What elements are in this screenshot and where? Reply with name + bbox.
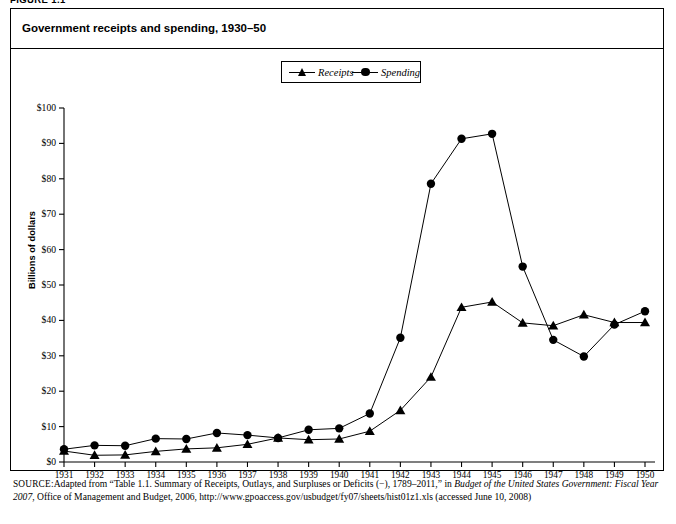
y-axis-tick-label: $20 <box>22 385 56 396</box>
y-axis-tick-label: $30 <box>22 350 56 361</box>
y-axis-tick-label: $10 <box>22 421 56 432</box>
y-axis-tick-label: $60 <box>22 244 56 255</box>
y-axis-tick-label: $90 <box>22 137 56 148</box>
source-text-2: , Office of Management and Budget, 2006,… <box>32 491 531 502</box>
y-axis-tick-label: $80 <box>22 173 56 184</box>
source-prefix: SOURCE: <box>13 479 54 489</box>
figure-label: FIGURE 1.1 <box>10 0 66 5</box>
y-axis-tick-label: $100 <box>22 102 56 113</box>
y-axis-tick-label: $40 <box>22 314 56 325</box>
y-axis-tick-label: $50 <box>22 279 56 290</box>
y-axis-tick-label: $70 <box>22 208 56 219</box>
plot-area: $0$10$20$30$40$50$60$70$80$90$1001931193… <box>11 9 665 472</box>
figure-box: Government receipts and spending, 1930–5… <box>10 8 664 471</box>
chart-svg <box>11 9 665 472</box>
y-axis-tick-label: $0 <box>22 456 56 467</box>
source-note: SOURCE:Adapted from “Table 1.1. Summary … <box>13 478 663 503</box>
source-text-1: Adapted from “Table 1.1. Summary of Rece… <box>54 478 455 489</box>
